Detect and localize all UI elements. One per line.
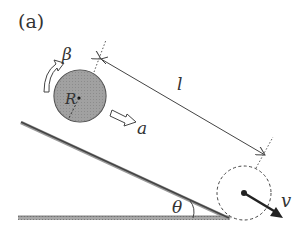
angle-label: θ	[172, 197, 182, 217]
end-extension-line	[256, 137, 273, 168]
beta-label: β	[61, 44, 72, 64]
incline-surface	[20, 121, 232, 219]
length-arrow	[101, 59, 265, 155]
acceleration-arrow	[110, 110, 136, 126]
velocity-label: v	[281, 190, 291, 211]
panel-label: (a)	[18, 10, 44, 32]
ball-shading	[54, 70, 106, 122]
start-extension-line	[94, 40, 106, 72]
incline-diagram: (a) θ R β a l v	[0, 0, 307, 246]
acceleration-label: a	[137, 118, 147, 138]
velocity-arrow	[244, 193, 283, 218]
length-label: l	[177, 74, 182, 94]
radius-label: R	[64, 90, 76, 108]
ground-surface	[18, 216, 230, 220]
